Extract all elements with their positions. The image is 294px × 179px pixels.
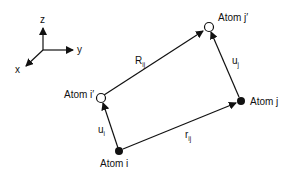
atom-i-filled-dot [115, 147, 123, 155]
label-u-j: uj [232, 55, 239, 69]
atom-i-prime-open-circle [97, 94, 106, 103]
vector-R-ij [104, 31, 203, 95]
vector-u-i [103, 103, 118, 148]
atom-j-filled-dot [237, 97, 245, 105]
label-u-i: ui [98, 124, 105, 137]
z-axis-label: z [40, 14, 45, 25]
atom-i-label: Atom i [100, 158, 128, 169]
atom-j-label: Atom j [250, 96, 278, 107]
y-axis-label: y [77, 44, 82, 55]
atom-i-prime-label: Atom i′ [64, 89, 94, 100]
label-r-ij: rij [185, 129, 191, 143]
label-R-ij: Rij [135, 55, 145, 69]
atom-displacement-diagram: z y x Rij rij ui uj Atom i′ Atom j′ Atom… [0, 0, 294, 179]
vector-r-ij [123, 103, 236, 149]
x-axis-label: x [15, 64, 20, 75]
atom-j-prime-label: Atom j′ [218, 12, 248, 23]
x-axis-arrow [26, 50, 43, 66]
atom-j-prime-open-circle [205, 23, 214, 32]
coordinate-axes: z y x [15, 14, 82, 75]
